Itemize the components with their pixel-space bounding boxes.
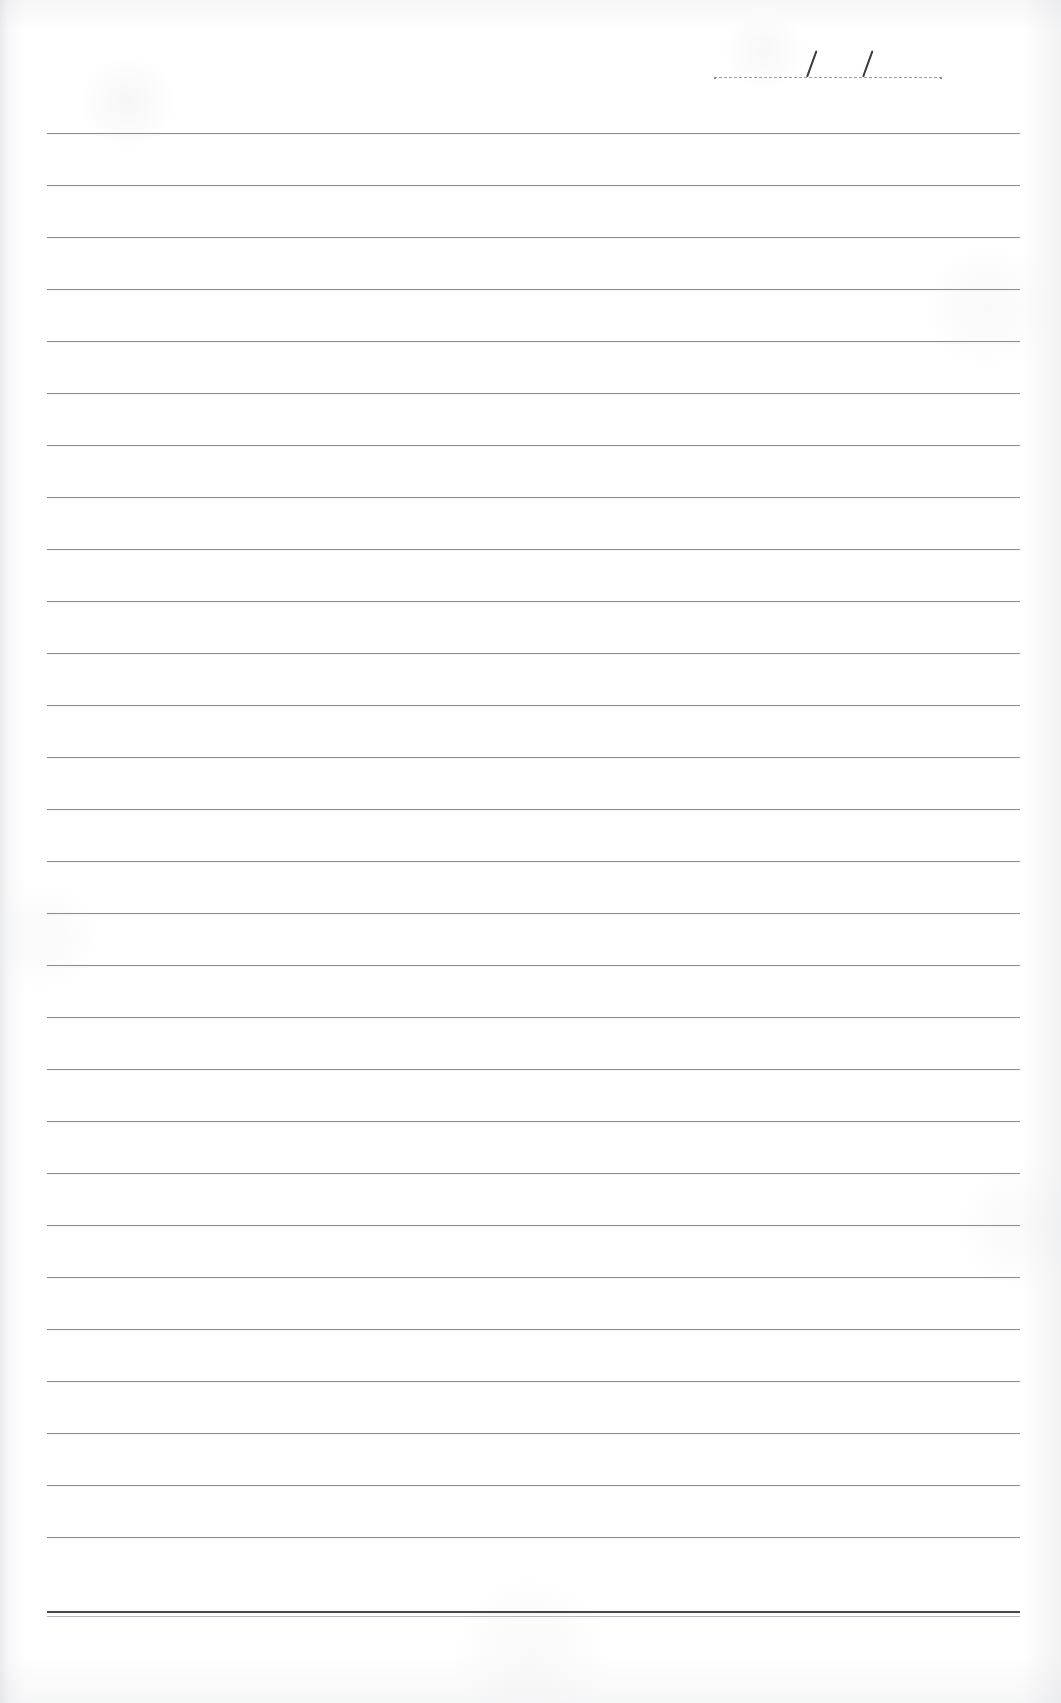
writing-line[interactable]: [47, 653, 1020, 654]
writing-line[interactable]: [47, 1381, 1020, 1382]
writing-line[interactable]: [47, 1277, 1020, 1278]
writing-line[interactable]: [47, 913, 1020, 914]
writing-line[interactable]: [47, 341, 1020, 342]
lined-paper-page: [0, 0, 1061, 1703]
writing-line[interactable]: [47, 1121, 1020, 1122]
writing-line[interactable]: [47, 497, 1020, 498]
writing-line[interactable]: [47, 1225, 1020, 1226]
writing-line[interactable]: [47, 445, 1020, 446]
writing-line[interactable]: [47, 705, 1020, 706]
writing-line[interactable]: [47, 965, 1020, 966]
bottom-double-rule: [47, 1611, 1020, 1613]
writing-line[interactable]: [47, 185, 1020, 186]
writing-line[interactable]: [47, 861, 1020, 862]
writing-line[interactable]: [47, 549, 1020, 550]
writing-line[interactable]: [47, 1017, 1020, 1018]
ruled-lines: [0, 0, 1061, 1703]
writing-line[interactable]: [47, 1537, 1020, 1538]
writing-line[interactable]: [47, 601, 1020, 602]
writing-line[interactable]: [47, 809, 1020, 810]
writing-line[interactable]: [47, 1485, 1020, 1486]
writing-line[interactable]: [47, 1433, 1020, 1434]
writing-line[interactable]: [47, 1173, 1020, 1174]
writing-line[interactable]: [47, 393, 1020, 394]
writing-line[interactable]: [47, 237, 1020, 238]
writing-line[interactable]: [47, 757, 1020, 758]
writing-line[interactable]: [47, 289, 1020, 290]
writing-line[interactable]: [47, 1329, 1020, 1330]
writing-line[interactable]: [47, 1069, 1020, 1070]
writing-line[interactable]: [47, 133, 1020, 134]
